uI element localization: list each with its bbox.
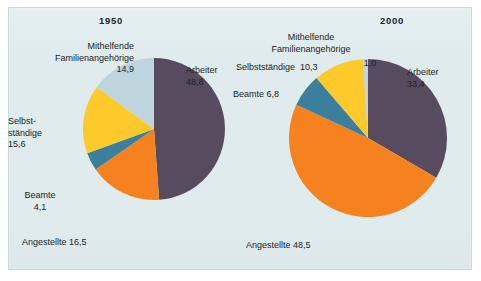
label-beamte-2000: Beamte 6,8 [233,89,305,101]
figure-canvas: 1950 Mithelfende Familienangehörige 14,9… [0,0,481,281]
pie-chart-2000: 2000 Mithelfende Familienangehörige Selb… [0,0,481,281]
label-angestellte-2000: Angestellte 48,5 [246,240,366,252]
chart-title-2000: 2000 [380,15,404,26]
label-mithelfende-2000: Mithelfende Familienangehörige [248,32,374,55]
label-arbeiter-2000: Arbeiter 33,4 [407,67,469,90]
label-mithelfende-value-2000: 1,0 [357,58,383,70]
label-selbststaendige-2000: Selbstständige 10,3 [236,62,344,74]
